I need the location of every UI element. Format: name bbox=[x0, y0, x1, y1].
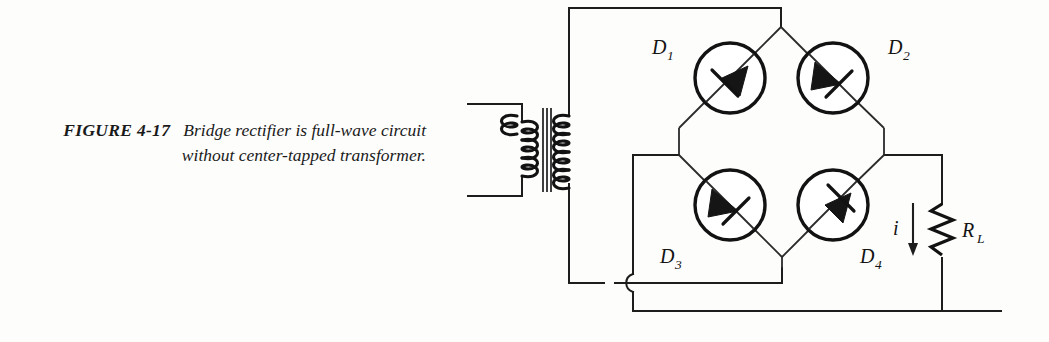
diode-d2-subscript: 2 bbox=[903, 48, 910, 63]
diode-d1-subscript: 1 bbox=[667, 48, 674, 63]
wire-bridge-right-node-to-load bbox=[884, 155, 942, 204]
current-arrow-head bbox=[908, 243, 918, 256]
load-resistor: R L bbox=[931, 204, 985, 255]
diode-d3-label: D bbox=[659, 245, 675, 267]
primary-winding bbox=[522, 121, 537, 176]
diode-d4-label: D bbox=[859, 245, 875, 267]
wire-bottom-return bbox=[633, 292, 1001, 311]
diode-d2: D 2 bbox=[798, 36, 910, 113]
diode-d2-label: D bbox=[887, 36, 903, 58]
transformer-core bbox=[543, 108, 551, 192]
current-label: i bbox=[893, 217, 899, 239]
diode-d4-subscript: 4 bbox=[875, 257, 882, 272]
current-arrow: i bbox=[893, 203, 918, 256]
diode-d4: D 4 bbox=[798, 170, 882, 272]
diode-d1: D 1 bbox=[651, 36, 765, 113]
load-resistor-subscript: L bbox=[976, 231, 985, 246]
wire-secondary-bottom-segment bbox=[569, 190, 604, 283]
secondary-winding bbox=[502, 115, 517, 134]
load-resistor-label: R bbox=[961, 219, 974, 241]
diode-d3-subscript: 3 bbox=[674, 257, 682, 272]
figure-page: FIGURE 4-17 Bridge rectifier is full-wav… bbox=[0, 0, 1049, 342]
diode-d1-label: D bbox=[651, 36, 667, 58]
transformer-symbol bbox=[468, 104, 569, 200]
bridge-rectifier-diagram: D 1 D 2 D 3 bbox=[0, 0, 1049, 342]
load-resistor-zigzag bbox=[931, 204, 953, 255]
secondary-winding-loops bbox=[554, 115, 569, 188]
wire-to-bridge-bottom-node bbox=[615, 268, 782, 283]
diode-d3: D 3 bbox=[659, 170, 765, 272]
